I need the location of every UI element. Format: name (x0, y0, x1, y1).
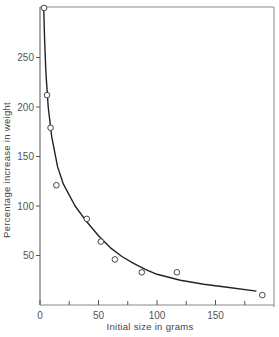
x-tick-label: 0 (37, 310, 43, 321)
y-tick-label: 250 (17, 52, 34, 63)
y-tick-label: 50 (23, 250, 35, 261)
y-tick-label: 150 (17, 151, 34, 162)
y-tick-label: 100 (17, 201, 34, 212)
fitted-curve-path (44, 8, 257, 291)
data-point-marker (48, 125, 54, 131)
fitted-curve (44, 8, 257, 291)
data-point-marker (139, 270, 145, 276)
data-point-marker (112, 257, 118, 263)
x-axis-label: Initial size in grams (106, 321, 193, 332)
data-points (41, 5, 265, 298)
data-point-marker (41, 5, 47, 11)
y-axis-label: Percentage increase in weight (1, 102, 12, 238)
data-point-marker (54, 182, 60, 188)
data-point-marker (98, 239, 104, 245)
x-tick-label: 150 (207, 310, 224, 321)
x-tick-label: 50 (93, 310, 105, 321)
x-axis-ticks: 050100150 (37, 300, 245, 321)
data-point-marker (84, 216, 90, 222)
y-tick-label: 200 (17, 102, 34, 113)
data-point-marker (260, 292, 266, 298)
x-tick-label: 100 (149, 310, 166, 321)
data-point-marker (174, 270, 180, 276)
chart: 050100150 50100150200250 Initial size in… (0, 0, 279, 337)
plot-frame (40, 7, 274, 307)
y-axis-ticks: 50100150200250 (17, 52, 40, 261)
data-point-marker (44, 92, 50, 98)
